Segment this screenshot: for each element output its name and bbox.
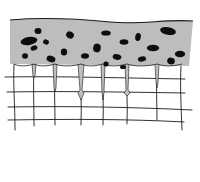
black-particle <box>147 45 159 51</box>
black-particle <box>103 61 108 66</box>
black-particle <box>22 53 28 59</box>
black-particle <box>101 30 111 35</box>
gray-surface-layer <box>10 19 193 66</box>
black-particle <box>81 53 89 59</box>
black-particle <box>61 48 67 55</box>
diagram-canvas <box>0 0 200 182</box>
black-particle <box>120 65 126 69</box>
black-particle <box>120 39 129 45</box>
black-particle <box>35 28 42 34</box>
black-particle <box>175 51 185 57</box>
